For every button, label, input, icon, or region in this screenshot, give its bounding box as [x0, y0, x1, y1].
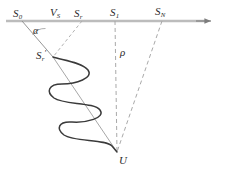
label-s0-sub: 0 [19, 13, 22, 20]
segment-s1-to-u [115, 21, 117, 152]
label-sr-base: S [74, 7, 80, 19]
label-sr-prime: Sr′ [36, 49, 46, 62]
segment-sr-to-srprime [53, 21, 82, 57]
label-alpha-base: α [33, 25, 38, 36]
label-u-base: U [119, 154, 127, 166]
label-u: U [119, 155, 127, 166]
sinusoidal-wave-curve [49, 57, 117, 152]
label-vs-sub: S [57, 12, 60, 19]
label-rho-base: ρ [120, 46, 125, 58]
label-alpha: α [33, 26, 38, 36]
segment-sn-to-u [117, 21, 162, 152]
sinusoidal-wave-group [49, 57, 117, 152]
label-sn-sub: N [161, 11, 166, 18]
label-sr-prime-mark: ′ [44, 48, 46, 58]
label-rho: ρ [120, 47, 125, 58]
upper-triangle-group [22, 21, 82, 57]
label-vs: VS [50, 7, 60, 20]
label-s1: S1 [110, 7, 119, 20]
label-s1-base: S [110, 6, 116, 18]
figure-root: S0 VS Sr S1 SN α Sr′ ρ U [0, 0, 226, 180]
label-sr-prime-base: S [36, 49, 42, 61]
label-s1-sub: 1 [116, 12, 119, 19]
label-s0: S0 [13, 8, 22, 21]
label-s0-base: S [13, 7, 19, 19]
label-sr-sub: r [80, 13, 83, 20]
rho-line-group [115, 21, 117, 152]
sn-line-group [117, 21, 162, 152]
label-sn-base: S [155, 5, 161, 17]
label-sr: Sr [74, 8, 82, 21]
label-vs-base: V [50, 6, 57, 18]
label-sn: SN [155, 6, 165, 19]
